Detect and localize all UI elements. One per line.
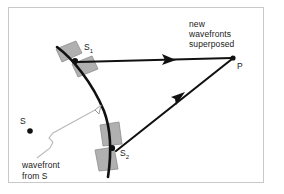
- ray-s1-to-p-line: [78, 58, 232, 62]
- point-marker-icon-p: [230, 55, 235, 60]
- callout-leader-line: [37, 110, 95, 158]
- callout-arrow-icon: [95, 105, 101, 114]
- label-source-s2-subscript: 2: [126, 154, 129, 160]
- label-source-s1-subscript: 1: [90, 48, 93, 54]
- label-source-s1: S1: [84, 42, 93, 56]
- annotation-wavefront-from-s: wavefront from S: [22, 160, 60, 182]
- label-point-s: S: [20, 116, 26, 126]
- label-source-s2: S2: [120, 148, 129, 162]
- ray-s1-to-p: [78, 54, 232, 65]
- wavefront-callout-leader: [37, 105, 101, 158]
- label-point-p: P: [237, 61, 243, 71]
- annotation-new-wavefronts-superposed: new wavefronts superposed: [189, 19, 234, 49]
- point-marker-icon-s1: [72, 58, 78, 64]
- ray-s2-to-p: [116, 59, 232, 151]
- wavelet-s2-lower: [95, 147, 118, 171]
- point-marker-icon-s: [27, 128, 33, 134]
- figure-root: new wavefronts superposed P S1 S2 S wave…: [0, 0, 284, 194]
- point-marker-icon-s2: [109, 145, 115, 151]
- ray-s2-to-p-line: [116, 59, 232, 151]
